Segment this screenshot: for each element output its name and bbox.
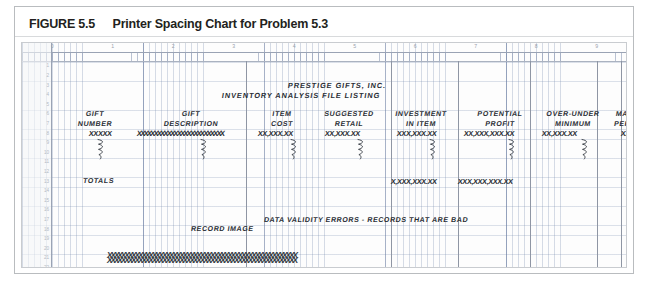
column-heading-line2: DESCRIPTION — [163, 120, 219, 128]
column-subruler — [22, 53, 626, 63]
ruler-tick: 6 — [414, 43, 417, 49]
ruler-tick: 4 — [293, 43, 296, 49]
repeat-squiggle-mark — [289, 138, 300, 164]
field-separator — [530, 61, 531, 267]
figure-container: FIGURE 5.5 Printer Spacing Chart for Pro… — [14, 6, 634, 274]
column-heading-line1: GIFT — [85, 110, 105, 118]
field-separator — [458, 61, 459, 267]
column-heading-line1: MARKUP — [615, 110, 627, 118]
error-record-image-block-second-line: XXXXXXXXXXXXXXXXXXXXXXXXXXXXXXXXXXXXXXXX… — [106, 257, 296, 264]
row-number: 15 — [44, 198, 49, 203]
row-number: 19 — [44, 236, 49, 241]
ruler-tick: 9 — [595, 43, 598, 49]
row-number: 12 — [44, 169, 49, 174]
report-company-heading: PRESTIGE GIFTS, INC. — [287, 81, 387, 90]
row-number: 1 — [46, 63, 49, 68]
row-number: 2 — [46, 73, 49, 78]
totals-label: TOTALS — [82, 177, 114, 185]
field-separator — [621, 61, 622, 267]
row-number: 17 — [44, 217, 49, 222]
repeat-squiggle-mark — [579, 138, 590, 164]
column-heading-line2: MINIMUM — [554, 120, 591, 128]
detail-line-picture: XXX% — [620, 129, 627, 138]
totals-line-picture: X,XXX,XXX.XX — [390, 177, 437, 186]
row-number: 20 — [44, 246, 49, 251]
row-number: 5 — [46, 102, 49, 107]
chart-grid-major — [22, 43, 626, 267]
row-number: 3 — [46, 83, 49, 88]
detail-line-picture: XXXXXXXXXXXXXXXXXXXXXXXXXX — [136, 129, 224, 138]
totals-line-picture: XXX,XXX,XXX.XX — [457, 177, 513, 186]
row-number: 13 — [44, 179, 49, 184]
detail-line-picture: XX,XXX.XX — [542, 129, 578, 138]
ruler-tick: 2 — [172, 43, 175, 49]
row-number: 6 — [46, 111, 49, 116]
repeat-squiggle-mark — [355, 138, 366, 164]
report-title-heading: INVENTORY ANALYSIS FILE LISTING — [221, 91, 381, 100]
column-heading-line1: OVER-UNDER — [545, 110, 599, 118]
field-separator — [391, 61, 392, 267]
annotation-validity-errors: DATA VALIDITY ERRORS - RECORDS THAT ARE … — [263, 216, 468, 224]
column-ruler: 012345678910 — [22, 43, 626, 53]
row-number: 8 — [46, 131, 49, 136]
repeat-squiggle-mark — [428, 138, 439, 164]
ruler-tick: 8 — [535, 43, 538, 49]
column-heading-line1: SUGGESTED — [323, 110, 374, 118]
row-number: 7 — [46, 121, 49, 126]
repeat-squiggle-mark — [198, 138, 209, 164]
row-number: 10 — [44, 150, 49, 155]
ruler-tick: 1 — [111, 43, 114, 49]
column-heading-line2: RETAIL — [334, 120, 364, 128]
column-heading-line2: NUMBER — [77, 120, 113, 128]
ruler-tick: 5 — [353, 43, 356, 49]
row-number-gutter: 12345678910111213141516171819202122 — [22, 43, 52, 267]
ruler-tick: 3 — [232, 43, 235, 49]
row-number: 14 — [44, 188, 49, 193]
column-heading-line2: IN ITEM — [406, 120, 437, 128]
row-number: 4 — [46, 92, 49, 97]
row-number: 18 — [44, 227, 49, 232]
annotation-record-image: RECORD IMAGE — [191, 225, 255, 233]
column-heading-line2: COST — [271, 120, 294, 128]
printer-spacing-chart: 012345678910 123456789101112131415161718… — [21, 42, 627, 268]
column-heading-line2: PROFIT — [485, 120, 516, 128]
field-separator — [597, 61, 598, 267]
row-number: 9 — [46, 140, 49, 145]
row-number: 21 — [44, 255, 49, 260]
column-heading-line1: GIFT — [182, 110, 202, 118]
row-number: 11 — [44, 159, 49, 164]
column-heading-line1: INVESTMENT — [395, 110, 447, 118]
row-number: 22 — [44, 265, 49, 268]
figure-label: FIGURE 5.5 — [29, 17, 95, 31]
figure-title: Printer Spacing Chart for Problem 5.3 — [113, 17, 329, 31]
repeat-squiggle-mark — [507, 138, 518, 164]
repeat-squiggle-mark — [95, 138, 106, 164]
column-heading-line2: PERCENT — [614, 120, 627, 128]
figure-caption: FIGURE 5.5 Printer Spacing Chart for Pro… — [15, 7, 633, 37]
column-heading-line1: POTENTIAL — [477, 110, 523, 118]
ruler-tick: 7 — [474, 43, 477, 49]
column-heading-line1: ITEM — [272, 110, 292, 118]
row-number: 16 — [44, 207, 49, 212]
